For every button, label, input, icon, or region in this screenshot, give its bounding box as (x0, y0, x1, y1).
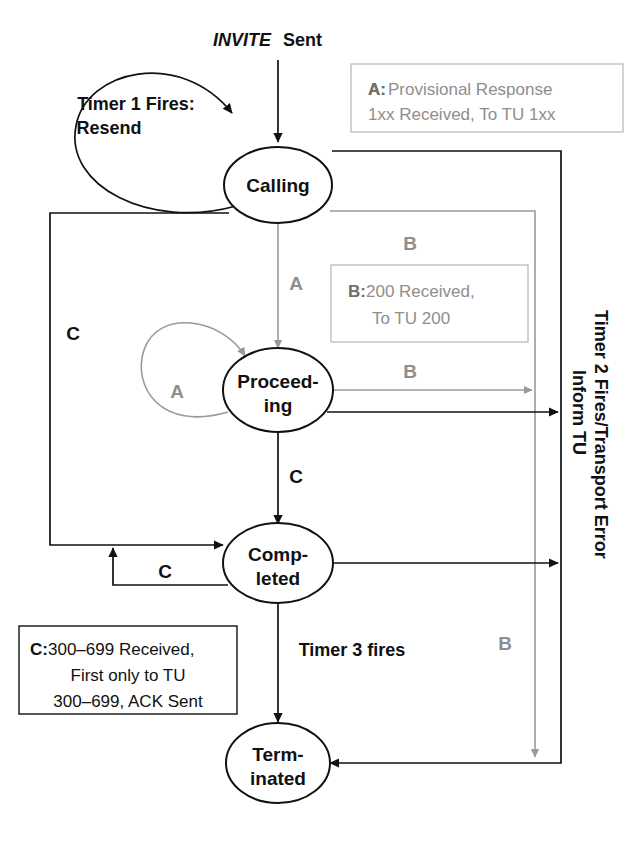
legend-a-key-text: A: (368, 80, 386, 99)
state-node-completed[interactable]: Comp- leted (223, 523, 333, 603)
terminated-label-line1: Term- (252, 744, 303, 765)
timer1-label-line2: Resend (76, 118, 141, 138)
label-calling-right-b: B (403, 233, 417, 254)
legend-b-box (331, 265, 528, 342)
state-machine-diagram: INVITE Sent Timer 1 Fires: Resend A: A: … (0, 0, 643, 852)
terminated-label-line2: inated (250, 768, 306, 789)
vertical-label-line2: Inform TU (569, 370, 589, 455)
label-proceeding-completed-c: C (289, 466, 303, 487)
legend-c: C: 300–699 Received, First only to TU 30… (19, 626, 237, 714)
label-b-down: B (498, 633, 512, 654)
state-node-proceeding[interactable]: Proceed- ing (223, 348, 333, 432)
label-calling-c: C (66, 323, 80, 344)
label-completed-self-c: C (158, 561, 172, 582)
legend-a-text-line2: 1xx Received, To TU 1xx (368, 105, 556, 124)
completed-label-line2: leted (256, 568, 300, 589)
label-proceeding-self-a: A (170, 381, 184, 402)
state-node-terminated[interactable]: Term- inated (226, 723, 330, 803)
invite-sent-italic: INVITE (213, 30, 272, 50)
legend-b: B: 200 Received, To TU 200 (331, 265, 528, 342)
legend-c-text-line2: First only to TU (71, 666, 186, 685)
label-proceeding-b: B (403, 361, 417, 382)
invite-sent-rest: Sent (283, 30, 322, 50)
legend-b-text-line1: 200 Received, (366, 282, 475, 301)
vertical-label-line1: Timer 2 Fires/Transport Error (591, 310, 611, 559)
legend-c-text-line3: 300–699, ACK Sent (53, 692, 203, 711)
legend-b-text-line2: To TU 200 (372, 309, 450, 328)
label-timer3: Timer 3 fires (299, 640, 406, 660)
label-calling-proceeding-a: A (289, 273, 303, 294)
completed-label-line1: Comp- (248, 544, 308, 565)
proceeding-label-line1: Proceed- (237, 371, 318, 392)
proceeding-label-line2: ing (264, 395, 293, 416)
calling-label: Calling (246, 175, 309, 196)
legend-c-key: C: (30, 640, 48, 659)
legend-b-key: B: (348, 282, 366, 301)
timer1-label-line1: Timer 1 Fires: (77, 94, 195, 114)
legend-c-text-line1: 300–699 Received, (48, 640, 195, 659)
legend-a-text-line1: Provisional Response (388, 80, 552, 99)
legend-a: A: A: Provisional Response 1xx Received,… (351, 64, 623, 132)
state-node-calling[interactable]: Calling (224, 147, 332, 223)
